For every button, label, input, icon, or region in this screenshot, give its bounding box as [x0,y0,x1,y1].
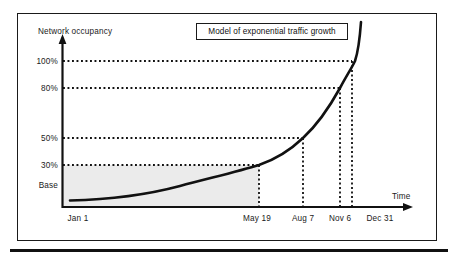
figure-root: Model of exponential traffic growth Netw… [0,0,454,256]
y-tick-label-30: 30% [24,161,58,170]
x-tick-label-nov-6: Nov 6 [329,214,351,223]
y-tick-label-80: 80% [24,84,58,93]
x-tick-label-dec-31: Dec 31 [367,214,394,223]
x-tick-label-jan-1: Jan 1 [68,214,89,223]
x-axis-arrowhead [403,203,413,211]
x-tick-label-aug-7: Aug 7 [292,214,314,223]
y-tick-label-100: 100% [24,57,58,66]
chart-title: Model of exponential traffic growth [208,27,335,36]
y-tick-label-base: Base [24,181,58,190]
bottom-rule [10,249,448,252]
y-axis-title: Network occupancy [38,27,112,36]
y-tick-label-50: 50% [24,134,58,143]
chart-title-box: Model of exponential traffic growth [196,23,348,40]
x-tick-label-may-19: May 19 [243,214,271,223]
x-axis-title: Time [392,192,411,201]
